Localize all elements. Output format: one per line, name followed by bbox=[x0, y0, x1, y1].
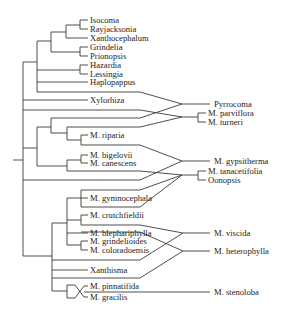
label-haplopappus: Haplopappus bbox=[90, 77, 136, 87]
label-turneri: M. turneri bbox=[208, 117, 243, 127]
label-canescens: M. canescens bbox=[90, 158, 137, 168]
label-gracilis: M. gracilis bbox=[90, 292, 128, 302]
label-pinnatifida: M. pinnatifida bbox=[90, 281, 139, 291]
label-riparia: M. riparia bbox=[90, 130, 125, 140]
hybrid-labels: Pyrrocoma M. parviflora M. turneri M. gy… bbox=[208, 99, 269, 297]
label-xylorhiza: Xylorhiza bbox=[90, 95, 125, 105]
label-coloradoensis: M. coloradoensis bbox=[90, 245, 150, 255]
label-xanthisma: Xanthisma bbox=[90, 265, 127, 275]
label-viscida: M. viscida bbox=[214, 228, 250, 238]
label-gymnocephala: M. gymnocephala bbox=[90, 193, 152, 203]
tree-svg: Isocoma Rayjacksonia Xanthocephalum Grin… bbox=[0, 0, 283, 317]
label-stenoloba: M. stenoloba bbox=[214, 287, 259, 297]
label-crutchfieldii: M. crutchfieldii bbox=[90, 210, 145, 220]
label-gypsitherma: M. gypsitherma bbox=[214, 156, 269, 166]
taxon-labels: Isocoma Rayjacksonia Xanthocephalum Grin… bbox=[90, 15, 152, 302]
phylogeny-diagram: Isocoma Rayjacksonia Xanthocephalum Grin… bbox=[0, 0, 283, 317]
label-oonopsis: Oonopsis bbox=[208, 175, 241, 185]
label-heterophylla: M. heterophylla bbox=[214, 246, 269, 256]
